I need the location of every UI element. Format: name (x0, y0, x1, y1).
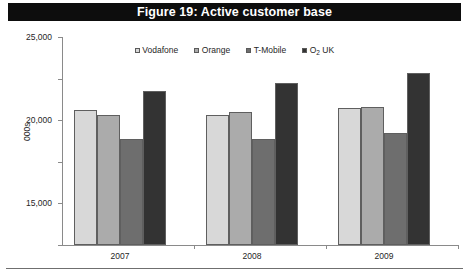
y-axis-tick: 0 (58, 245, 62, 246)
y-axis-tick: 5,000 (58, 203, 62, 204)
bar-t-mobile-2007 (120, 139, 143, 245)
bar-o2-uk-2009 (407, 73, 430, 245)
bar-orange-2007 (97, 115, 120, 245)
bar-o2-uk-2007 (143, 91, 166, 245)
bar-vodafone-2009 (338, 108, 361, 245)
bar-o2-uk-2008 (275, 83, 298, 245)
y-axis-tick: 15,000 (58, 120, 62, 121)
bar-orange-2008 (229, 112, 252, 245)
figure-title: Figure 19: Active customer base (137, 5, 332, 19)
y-axis-tick: 20,000 (58, 79, 62, 80)
x-axis-group-tick (194, 245, 195, 249)
y-axis-tick: 10,000 (58, 162, 62, 163)
x-axis-group-tick (326, 245, 327, 249)
y-axis-line (62, 37, 63, 246)
bar-orange-2009 (361, 107, 384, 245)
y-axis-title: 000s (22, 123, 32, 141)
y-axis-tick-label: 25,000 (26, 32, 52, 42)
bar-vodafone-2007 (74, 110, 97, 245)
x-axis-label-2007: 2007 (111, 251, 130, 261)
page-divider (6, 268, 463, 269)
bar-t-mobile-2009 (384, 133, 407, 245)
bar-vodafone-2008 (206, 115, 229, 245)
x-axis-label-2008: 2008 (243, 251, 262, 261)
x-axis-line (62, 245, 458, 246)
y-axis-tick-label: 15,000 (26, 198, 52, 208)
bar-t-mobile-2008 (252, 139, 275, 245)
figure-container: Figure 19: Active customer base Vodafone… (0, 0, 469, 278)
y-axis-tick: 25,000 (58, 37, 62, 38)
x-axis-group-tick (458, 245, 459, 249)
figure-title-bar: Figure 19: Active customer base (8, 3, 461, 21)
plot-area: 05,00010,00015,00020,00025,000 200720082… (62, 37, 458, 245)
x-axis-label-2009: 2009 (375, 251, 394, 261)
